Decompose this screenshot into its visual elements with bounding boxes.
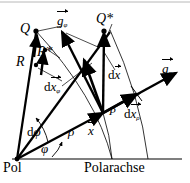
dx-rho-subscript: ρ (136, 114, 139, 122)
figure-canvas: Q Q* P R R* gφ gρ dx dxρ dxφ ρ x dφ φ Po… (0, 0, 190, 183)
label-vector-dx: dx (108, 68, 120, 81)
leader-gphi-to-point (66, 33, 98, 47)
label-point-Q: Q (20, 22, 30, 36)
label-vector-dx-rho: dxρ (124, 107, 140, 120)
g-phi-subscript: φ (64, 21, 68, 29)
leader-dx-rho (137, 88, 147, 96)
x-letter: x (88, 124, 94, 137)
label-angle-dphi: dφ (27, 125, 41, 138)
point-R-marker-dot (34, 63, 38, 67)
label-vector-R: R (16, 55, 25, 69)
label-vector-dx-phi: dxφ (44, 80, 60, 93)
label-scalar-rho: ρ (68, 125, 74, 138)
g-phi-letter: g (57, 13, 64, 28)
vector-R-line (17, 33, 36, 159)
label-vector-g-phi: gφ (57, 14, 67, 27)
point-Qstar-dot (101, 28, 106, 33)
label-angle-phi: φ (41, 142, 48, 155)
vector-dx-phi-line (84, 60, 103, 113)
label-vector-x: x (88, 124, 94, 137)
dx-phi-subscript: φ (56, 87, 60, 95)
leader-to-Qstar (104, 24, 112, 44)
dx-letter: x (115, 68, 121, 81)
label-vector-Rstar: R* (37, 45, 53, 59)
label-pole: Pol (3, 161, 22, 175)
label-point-P: P (109, 106, 116, 117)
vector-g-phi-line (62, 32, 103, 113)
label-vector-g-rho: gρ (162, 62, 172, 75)
dphi-letter: φ (34, 124, 41, 139)
label-polar-axis: Polarachse (84, 161, 145, 175)
vector-dx-line (103, 33, 104, 113)
g-rho-letter: g (162, 61, 169, 76)
angle-arc-phi (52, 142, 62, 157)
point-Q-dot (33, 28, 38, 33)
g-rho-subscript: ρ (169, 69, 172, 77)
label-point-Qstar: Q* (96, 12, 113, 26)
arc-radius-Rstar (110, 30, 148, 159)
